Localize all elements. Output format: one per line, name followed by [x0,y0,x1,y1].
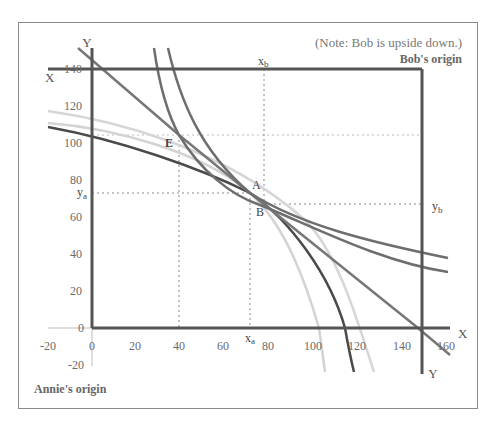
y-tick: 20 [70,284,82,298]
x-tick: 0 [89,339,95,353]
bob-x-label: X [45,70,55,85]
annie-origin-label: Annie's origin [34,382,107,396]
x-tick: 120 [348,339,366,353]
x-tick: 40 [173,339,185,353]
edgeworth-box-chart: 140 120 100 80 60 40 20 0 -20 -20 0 20 4… [0,0,497,431]
y-tick: 140 [64,62,82,76]
x-tick: -20 [40,339,56,353]
y-tick: 40 [70,247,82,261]
x-tick: 80 [262,339,274,353]
yb-label: yb [432,199,443,215]
xb-label: xb [258,54,269,69]
x-tick: 100 [304,339,322,353]
bob-y-label: Y [428,366,438,381]
y-tick: 60 [70,210,82,224]
point-b-label: B [256,205,264,219]
point-a-label: A [252,178,261,192]
y-tick: 100 [64,136,82,150]
annie-x-label: X [458,326,468,341]
y-tick: 120 [64,99,82,113]
x-tick: 160 [437,339,455,353]
ya-label: ya [77,185,87,201]
bob-curve-1 [154,48,448,272]
bob-origin-label: Bob's origin [400,52,463,66]
x-tick: 20 [129,339,141,353]
y-tick: -20 [68,358,84,372]
annie-curve-light [48,123,325,372]
x-tick: 60 [217,339,229,353]
xa-label: xa [245,331,255,346]
point-e-label: E [165,136,173,150]
y-tick: 0 [78,321,84,335]
x-tick: 140 [393,339,411,353]
note-text: (Note: Bob is upside down.) [315,35,462,50]
annie-y-label: Y [82,35,92,50]
